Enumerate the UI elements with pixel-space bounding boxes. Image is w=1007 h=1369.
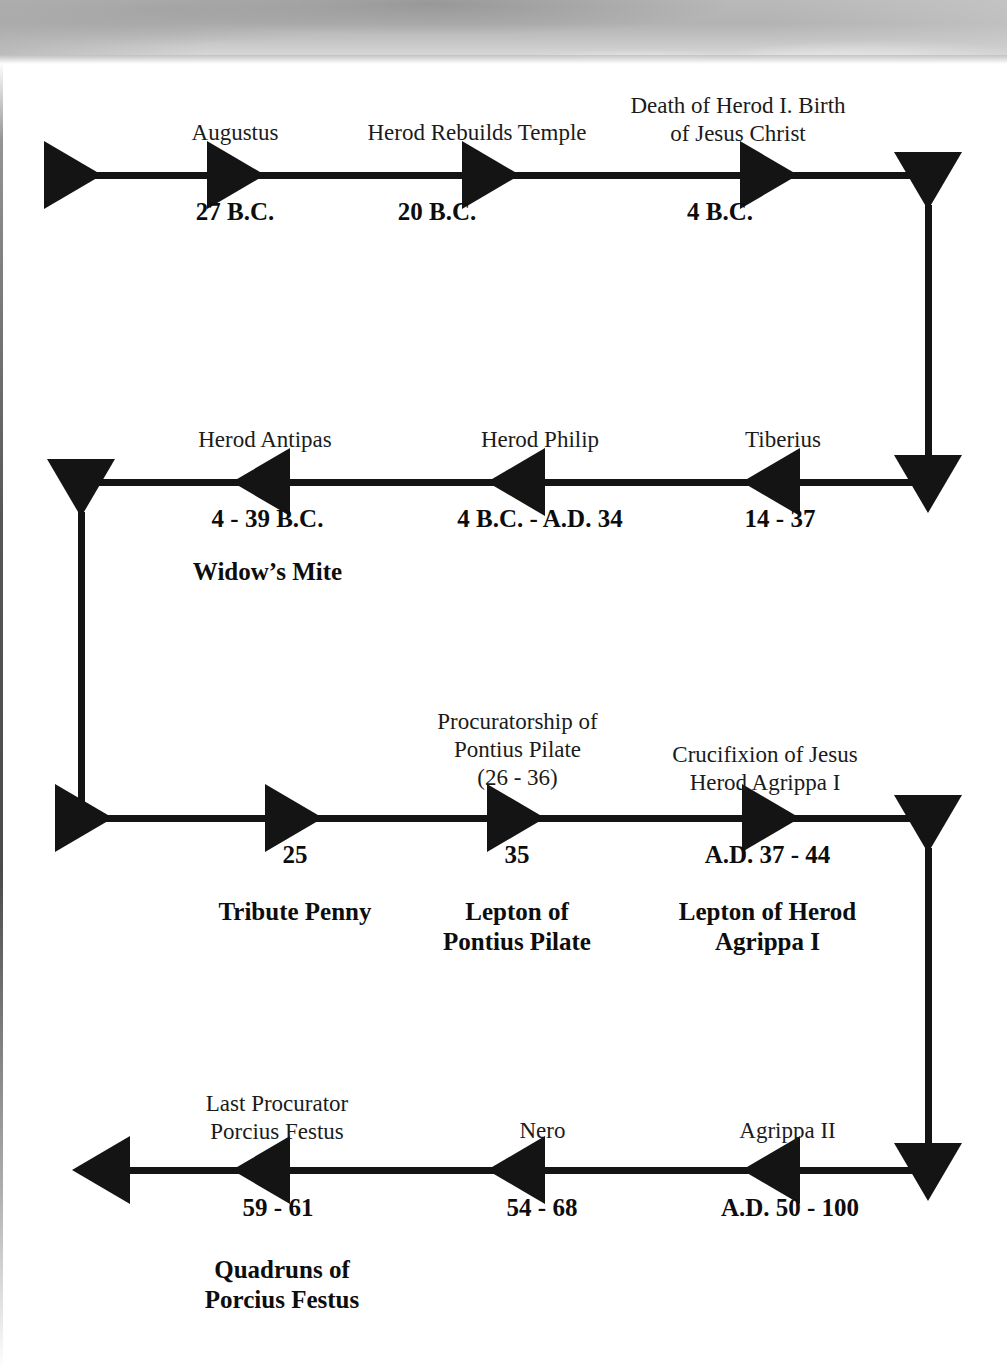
photo-band-right-shade — [767, 0, 1007, 62]
row1-to-row2-connector — [925, 205, 932, 458]
row2-event-2-date: 4 B.C. - A.D. 34 — [420, 504, 660, 533]
row1-to-row2-corner-arrowhead — [894, 152, 962, 210]
row2-event-2-label: Herod Philip — [455, 426, 625, 454]
row1-start-arrowhead — [44, 141, 102, 209]
row4-event-2-date: 54 - 68 — [462, 1193, 622, 1222]
row1-event-3-date: 4 B.C. — [645, 197, 795, 226]
row3-event-2-date: 35 — [452, 840, 582, 869]
timeline-page: Augustus 27 B.C. Herod Rebuilds Temple 2… — [0, 0, 1007, 1369]
row1-event-2-date: 20 B.C. — [357, 197, 517, 226]
row3-event-1-date: 25 — [230, 840, 360, 869]
row1-event-2-label: Herod Rebuilds Temple — [352, 119, 602, 147]
row1-event-1-label: Augustus — [150, 119, 320, 147]
row3-event-3-label: Crucifixion of Jesus Herod Agrippa I — [645, 741, 885, 797]
row3-event-3-date: A.D. 37 - 44 — [665, 840, 870, 869]
photo-band-bottom-edge — [0, 55, 1007, 64]
row4-event-3-label: Agrippa II — [700, 1117, 875, 1145]
row4-event-2-label: Nero — [470, 1117, 615, 1145]
row4-event-1-label: Last Procurator Porcius Festus — [187, 1090, 367, 1146]
row1-event-1-date: 27 B.C. — [155, 197, 315, 226]
row3-event-1-coin-label: Tribute Penny — [205, 897, 385, 927]
row3-event-3-coin-label: Lepton of Herod Agrippa I — [655, 897, 880, 957]
row1-event-3-label: Death of Herod I. Birth of Jesus Christ — [612, 92, 864, 148]
row2-event-1-label: Herod Antipas — [180, 426, 350, 454]
row2-event-3-date: 14 - 37 — [700, 504, 860, 533]
row3-to-row4-corner-arrowhead — [894, 795, 962, 853]
row4-end-arrowhead — [72, 1136, 130, 1204]
row2-event-1-date: 4 - 39 B.C. — [185, 504, 350, 533]
row3-event-2-label: Procuratorship of Pontius Pilate (26 - 3… — [405, 708, 630, 792]
row4-event-3-date: A.D. 50 - 100 — [690, 1193, 890, 1222]
row2-event-1-coin-label: Widow’s Mite — [185, 557, 350, 587]
row3-event-2-coin-label: Lepton of Pontius Pilate — [427, 897, 607, 957]
row3-to-row4-connector — [925, 848, 932, 1146]
photo-band-left-shade — [0, 0, 210, 62]
row4-event-1-date: 59 - 61 — [198, 1193, 358, 1222]
page-scan-edge — [0, 62, 3, 1369]
row4-event-1-coin-label: Quadruns of Porcius Festus — [182, 1255, 382, 1315]
row2-to-row3-corner-arrowhead — [47, 459, 115, 517]
row2-to-row3-connector — [78, 512, 85, 815]
header-photo-band — [0, 0, 1007, 62]
row2-event-3-label: Tiberius — [698, 426, 868, 454]
